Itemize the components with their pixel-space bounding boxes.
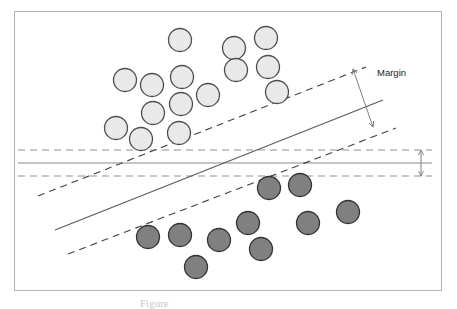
data-point-class-b [297, 212, 320, 235]
data-point-class-b [185, 256, 208, 279]
svm-margin-figure: Margin Figure [0, 0, 457, 309]
data-point-class-a [225, 59, 248, 82]
data-point-class-a [170, 93, 193, 116]
data-point-class-a [168, 122, 191, 145]
data-point-class-b [258, 177, 281, 200]
data-point-class-a [255, 27, 278, 50]
data-point-class-a [130, 128, 153, 151]
data-point-class-a [197, 84, 220, 107]
data-point-class-a [266, 81, 289, 104]
data-point-class-a [114, 69, 137, 92]
data-point-class-a [257, 56, 280, 79]
svm-diagram-canvas: Margin Figure [0, 0, 457, 309]
data-point-class-b [237, 212, 260, 235]
data-point-class-a [223, 37, 246, 60]
data-point-class-b [137, 226, 160, 249]
data-point-class-b [337, 201, 360, 224]
data-point-class-b [289, 174, 312, 197]
data-point-class-a [105, 117, 128, 140]
data-point-class-b [169, 224, 192, 247]
data-point-class-b [250, 238, 273, 261]
data-point-class-b [208, 229, 231, 252]
data-point-class-a [142, 102, 165, 125]
margin-label: Margin [377, 67, 406, 78]
data-point-class-a [169, 29, 192, 52]
data-point-class-a [171, 66, 194, 89]
figure-caption: Figure [140, 297, 169, 309]
data-point-class-a [141, 74, 164, 97]
